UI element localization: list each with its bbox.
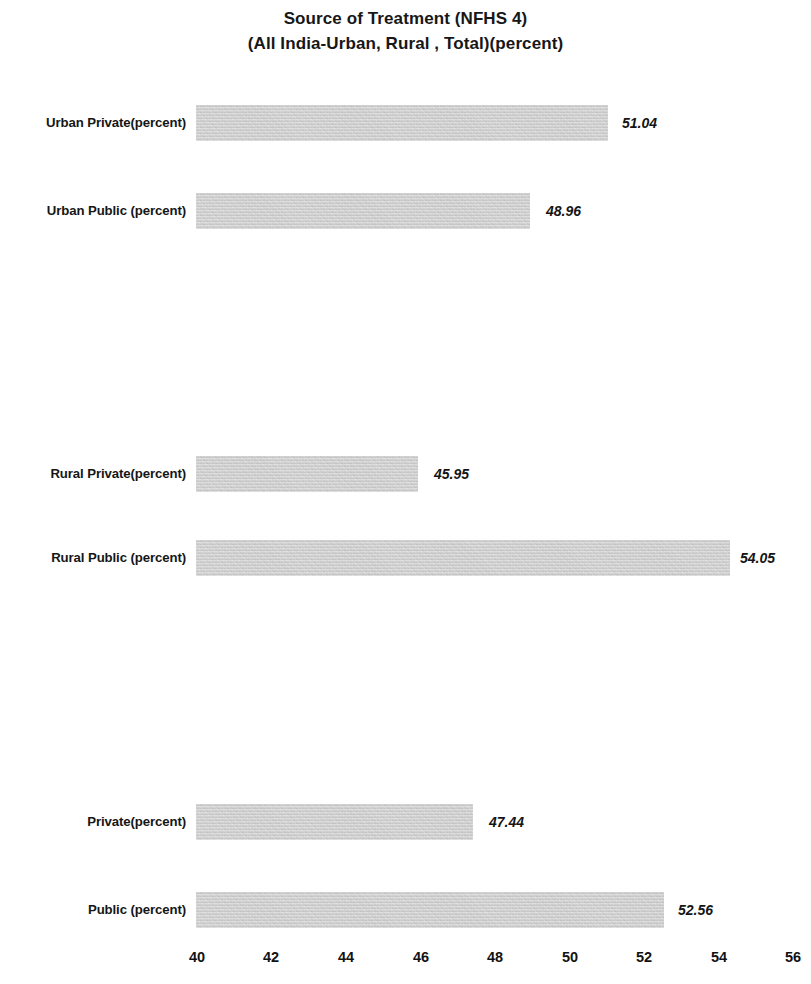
x-tick-label: 46 <box>394 946 448 968</box>
bar-value-public: 52.56 <box>678 892 713 928</box>
x-tick-label: 48 <box>468 946 522 968</box>
category-label-public: Public (percent) <box>0 892 186 928</box>
category-label-rural-public: Rural Public (percent) <box>0 540 186 576</box>
bar-value-urban-private: 51.04 <box>622 105 657 141</box>
bar-rural-public[interactable] <box>196 540 730 576</box>
x-tick-label: 40 <box>170 946 224 968</box>
x-tick-label: 44 <box>319 946 373 968</box>
plot-area: Urban Private(percent) 51.04 Urban Publi… <box>0 0 811 984</box>
bar-value-urban-public: 48.96 <box>546 193 581 229</box>
x-tick-label: 50 <box>543 946 597 968</box>
x-tick-label: 56 <box>766 946 811 968</box>
category-label-urban-private: Urban Private(percent) <box>0 105 186 141</box>
x-tick-label: 54 <box>692 946 746 968</box>
x-axis: 40 42 44 46 48 50 52 54 56 <box>0 946 811 976</box>
bar-public[interactable] <box>196 892 664 928</box>
x-tick-label: 52 <box>617 946 671 968</box>
bar-value-private: 47.44 <box>489 804 524 840</box>
bar-value-rural-public: 54.05 <box>740 540 775 576</box>
category-label-private: Private(percent) <box>0 804 186 840</box>
bar-urban-private[interactable] <box>196 105 608 141</box>
category-label-rural-private: Rural Private(percent) <box>0 456 186 492</box>
bar-rural-private[interactable] <box>196 456 418 492</box>
category-label-urban-public: Urban Public (percent) <box>0 193 186 229</box>
bar-private[interactable] <box>196 804 473 840</box>
x-tick-label: 42 <box>244 946 298 968</box>
bar-urban-public[interactable] <box>196 193 530 229</box>
bar-value-rural-private: 45.95 <box>434 456 469 492</box>
